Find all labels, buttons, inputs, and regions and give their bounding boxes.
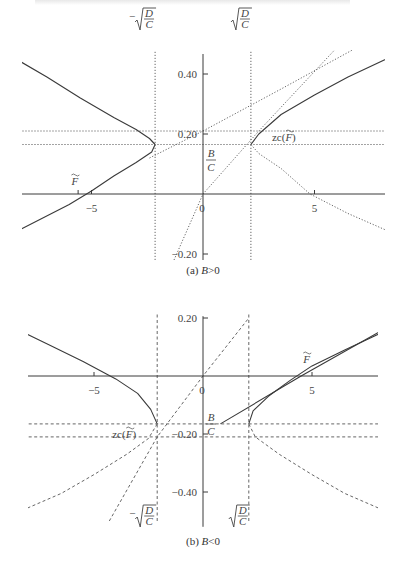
y-tick-label: 0.20 <box>178 312 198 324</box>
frac-denominator: C <box>207 425 215 437</box>
minus-sign: − <box>129 10 135 22</box>
panel-a: −5050.400.20−0.20−DCDCBCzc(F)F (a) B>0 <box>13 7 392 277</box>
label-neg-sqrt-DC: −DC <box>129 7 156 30</box>
series-hyperbola-right-solid <box>249 330 388 424</box>
series-hyperbola-right-lower <box>251 145 393 234</box>
frac-numerator: B <box>208 147 215 159</box>
label-pos-sqrt-DC: DC <box>229 504 250 527</box>
series-hyperbola-left-lower <box>13 145 155 234</box>
figure: −5050.400.20−0.20−DCDCBCzc(F)F (a) B>0 −… <box>0 0 403 566</box>
label-B-over-C: BC <box>206 411 216 437</box>
panel-b: −5050.20−0.20−0.40−DCDCBCzc(F)F (b) B<0 <box>18 312 389 548</box>
label-neg-sqrt-DC: −DC <box>129 504 156 527</box>
series-tangent-line-solid <box>220 327 388 424</box>
x-tick-label: 5 <box>309 384 315 396</box>
label-zc-F: zc(F) <box>272 131 296 144</box>
label-B-over-C: BC <box>206 147 216 173</box>
frac-numerator: B <box>208 411 215 423</box>
x-tick-label: 5 <box>312 202 318 214</box>
x-tick-label: 0 <box>199 384 205 396</box>
frac-denominator: C <box>145 18 153 30</box>
x-tick-label: −5 <box>86 202 98 214</box>
minus-sign: − <box>129 507 135 519</box>
y-tick-label: −0.20 <box>172 428 198 440</box>
frac-denominator: C <box>239 515 247 527</box>
y-tick-label: −0.20 <box>172 248 198 260</box>
label-pos-sqrt-DC: DC <box>231 7 252 30</box>
frac-denominator: C <box>146 515 154 527</box>
x-tick-label: 0 <box>199 202 205 214</box>
label-F-tilde: F <box>70 175 78 187</box>
series-hyperbola-left-lower <box>18 424 158 512</box>
caption-b: (b) B<0 <box>186 535 221 548</box>
frac-denominator: C <box>207 161 215 173</box>
frac-denominator: C <box>241 18 249 30</box>
y-tick-label: 0.40 <box>178 68 198 80</box>
series-hyperbola-left-solid <box>18 330 158 424</box>
series-hyperbola-right-lower <box>249 424 388 512</box>
label-zc-F: zc(F) <box>112 428 136 441</box>
series-tangent-line-steep <box>174 50 335 260</box>
x-tick-label: −5 <box>88 384 100 396</box>
y-tick-label: −0.40 <box>172 486 198 498</box>
y-tick-label: 0.20 <box>178 128 198 140</box>
caption-a: (a) B>0 <box>186 264 220 277</box>
label-F-tilde: F <box>302 353 310 365</box>
